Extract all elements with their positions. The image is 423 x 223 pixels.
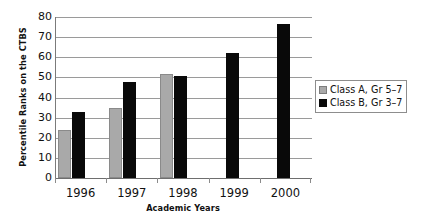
- bar: [109, 108, 122, 178]
- x-axis-tick-label: 1998: [157, 186, 209, 200]
- bars-layer: [56, 17, 312, 178]
- bar-group: [261, 17, 312, 178]
- x-axis-tick-label: 1999: [208, 186, 260, 200]
- bar-group: [107, 17, 158, 178]
- bar-group: [210, 17, 261, 178]
- y-axis-tick-labels: 01020304050607080: [28, 0, 52, 223]
- y-axis-tick-label: 20: [28, 132, 52, 143]
- bar-group: [158, 17, 209, 178]
- bar: [58, 130, 71, 178]
- bar: [160, 74, 173, 178]
- x-axis-ticks: [55, 178, 311, 184]
- x-axis-tick: [310, 178, 311, 183]
- bar: [277, 24, 290, 178]
- bar: [123, 82, 136, 178]
- y-axis-tick-label: 40: [28, 92, 52, 103]
- bar: [72, 112, 85, 178]
- bar-chart-figure: Percentile Ranks on the CTBS 01020304050…: [0, 0, 423, 223]
- x-axis-tick: [106, 178, 107, 183]
- y-axis-tick-label: 0: [28, 172, 52, 183]
- x-axis-tick-label: 1996: [55, 186, 107, 200]
- y-axis-tick-label: 80: [28, 11, 52, 22]
- x-axis-title: Academic Years: [55, 203, 311, 213]
- legend-item-label: Class B, Gr 3–7: [330, 97, 402, 108]
- legend-swatch-icon: [319, 86, 327, 94]
- x-axis-tick: [55, 178, 56, 183]
- bar: [174, 76, 187, 178]
- bar-group: [56, 17, 107, 178]
- plot-area: [55, 17, 312, 178]
- y-axis-title: Percentile Ranks on the CTBS: [18, 12, 28, 182]
- y-axis-tick-label: 10: [28, 152, 52, 163]
- y-axis-tick-label: 60: [28, 51, 52, 62]
- x-axis-tick: [260, 178, 261, 183]
- legend-item[interactable]: Class A, Gr 5–7: [319, 83, 402, 96]
- y-axis-tick-label: 50: [28, 71, 52, 82]
- y-axis-tick-label: 30: [28, 112, 52, 123]
- x-axis-tick: [209, 178, 210, 183]
- x-axis-tick-labels: 19961997199819992000: [55, 186, 311, 202]
- legend-swatch-icon: [319, 99, 327, 107]
- legend-item-label: Class A, Gr 5–7: [330, 84, 402, 95]
- legend-item[interactable]: Class B, Gr 3–7: [319, 96, 402, 109]
- x-axis-tick: [157, 178, 158, 183]
- x-axis-tick-label: 2000: [259, 186, 311, 200]
- chart-legend: Class A, Gr 5–7Class B, Gr 3–7: [315, 80, 407, 113]
- x-axis-tick-label: 1997: [106, 186, 158, 200]
- y-axis-tick-label: 70: [28, 31, 52, 42]
- bar: [226, 53, 239, 178]
